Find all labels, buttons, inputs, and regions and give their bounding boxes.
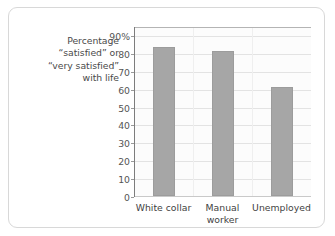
y-axis-tick-label: 0 bbox=[124, 192, 130, 203]
y-axis-label-line-1: Percentage bbox=[15, 35, 119, 47]
plot-top-border bbox=[134, 27, 311, 28]
y-axis-line bbox=[134, 27, 135, 197]
x-axis-category-label-line: White collar bbox=[136, 202, 191, 214]
y-axis-tick-label: 30 bbox=[118, 138, 130, 149]
y-axis-tick-mark bbox=[131, 197, 134, 198]
y-axis-tick-mark bbox=[131, 108, 134, 109]
y-axis-tick-mark bbox=[131, 179, 134, 180]
chart-figure: Percentage “satisfied” or “very satisfie… bbox=[8, 7, 325, 228]
y-axis-tick-label: 10 bbox=[118, 174, 130, 185]
y-axis-tick-label: 90% bbox=[109, 30, 130, 41]
x-axis-category-label-line: Unemployed bbox=[252, 202, 311, 214]
x-axis-category-label-line: Manual bbox=[206, 202, 240, 214]
bar bbox=[212, 51, 234, 196]
category-divider bbox=[252, 27, 253, 197]
y-axis-tick-label: 60 bbox=[118, 84, 130, 95]
x-axis-category-label-line: worker bbox=[206, 214, 240, 226]
y-axis-tick-label: 20 bbox=[118, 156, 130, 167]
bar bbox=[153, 47, 175, 196]
x-axis-category-label: Manualworker bbox=[206, 202, 240, 225]
y-axis-label-line-4: with life bbox=[15, 72, 119, 84]
y-axis-label-line-2: “satisfied” or bbox=[15, 47, 119, 59]
y-axis-tick-label: 80 bbox=[118, 48, 130, 59]
y-axis-tick-mark bbox=[131, 72, 134, 73]
gridline bbox=[134, 36, 311, 37]
y-axis-tick-mark bbox=[131, 143, 134, 144]
y-axis-tick-mark bbox=[131, 125, 134, 126]
x-axis-category-label: White collar bbox=[136, 202, 191, 214]
plot-area: 0102030405060708090% White collarManualw… bbox=[134, 27, 311, 197]
y-axis-tick-label: 40 bbox=[118, 120, 130, 131]
y-axis-tick-mark bbox=[131, 161, 134, 162]
plot-baseline bbox=[134, 196, 311, 197]
x-axis-category-label: Unemployed bbox=[252, 202, 311, 214]
y-axis-tick-mark bbox=[131, 54, 134, 55]
y-axis-tick-label: 50 bbox=[118, 102, 130, 113]
y-axis-tick-label: 70 bbox=[118, 66, 130, 77]
y-axis-tick-mark bbox=[131, 36, 134, 37]
y-axis-tick-mark bbox=[131, 90, 134, 91]
y-axis-label-line-3: “very satisfied” bbox=[15, 60, 119, 72]
bar bbox=[271, 87, 293, 196]
y-axis-label: Percentage “satisfied” or “very satisfie… bbox=[15, 35, 119, 84]
category-divider bbox=[193, 27, 194, 197]
